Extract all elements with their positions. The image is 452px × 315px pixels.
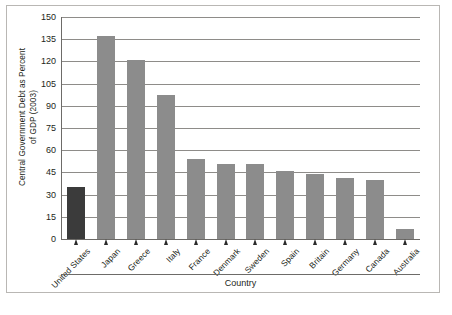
- y-tick-label-150: 150: [41, 12, 56, 22]
- category-label-france: France: [186, 246, 212, 272]
- tick-arrow-icon: [403, 239, 407, 245]
- tick-arrow-icon: [164, 239, 168, 245]
- tick-arrow-icon: [194, 239, 198, 245]
- tick-arrow-icon: [253, 239, 257, 245]
- bars: [61, 17, 420, 239]
- tick-arrow-icon: [74, 239, 78, 245]
- x-axis-rule: [61, 274, 420, 275]
- y-tick-label-75: 75: [46, 123, 56, 133]
- tick-arrow-icon: [134, 239, 138, 245]
- y-tick-label-90: 90: [46, 101, 56, 111]
- bar-italy: [157, 95, 175, 239]
- tick-arrow-icon: [283, 239, 287, 245]
- chart-figure: Central Government Debt as Percent of GD…: [6, 5, 440, 293]
- tick-arrow-icon: [224, 239, 228, 245]
- category-label-sweden: Sweden: [243, 246, 272, 275]
- category-label-australia: Australia: [391, 246, 421, 277]
- category-label-greece: Greece: [125, 246, 152, 273]
- y-tick-label-15: 15: [46, 212, 56, 222]
- x-axis-title: Country: [61, 278, 420, 288]
- tick-arrow-icon: [313, 239, 317, 245]
- y-tick-label-120: 120: [41, 56, 56, 66]
- y-tick-label-135: 135: [41, 34, 56, 44]
- category-label-canada: Canada: [363, 246, 391, 274]
- bar-japan: [97, 36, 115, 239]
- y-tick-label-60: 60: [46, 145, 56, 155]
- bar-australia: [396, 229, 414, 239]
- y-tick-label-30: 30: [46, 190, 56, 200]
- y-axis-title-line-1: Central Government Debt as Percent: [17, 22, 28, 212]
- y-tick-label-0: 0: [51, 234, 56, 244]
- plot-area: 0153045607590105120135150: [61, 17, 420, 239]
- y-tick-label-45: 45: [46, 167, 56, 177]
- category-label-britain: Britain: [307, 246, 331, 271]
- bar-denmark: [217, 164, 235, 239]
- y-axis-title: Central Government Debt as Percent of GD…: [17, 22, 39, 212]
- bar-canada: [366, 180, 384, 239]
- category-label-japan: Japan: [99, 246, 122, 270]
- tick-arrow-icon: [343, 239, 347, 245]
- bar-britain: [306, 174, 324, 239]
- bar-spain: [276, 171, 294, 239]
- bar-sweden: [246, 164, 264, 239]
- tick-arrow-icon: [104, 239, 108, 245]
- category-label-spain: Spain: [279, 246, 301, 269]
- y-axis-title-line-2: of GDP (2003): [28, 22, 39, 212]
- bar-france: [187, 159, 205, 239]
- bar-greece: [127, 60, 145, 239]
- category-label-italy: Italy: [164, 246, 182, 264]
- tick-arrow-icon: [373, 239, 377, 245]
- bar-germany: [336, 178, 354, 239]
- bar-united-states: [67, 187, 85, 239]
- y-tick-label-105: 105: [41, 79, 56, 89]
